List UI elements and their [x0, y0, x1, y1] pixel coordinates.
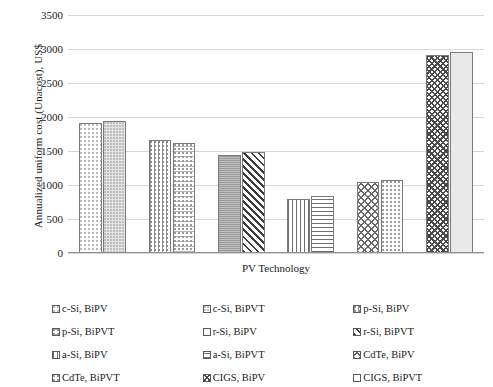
bar-r-si-bipv	[218, 155, 241, 253]
legend-item[interactable]: CdTe, BiPVT	[24, 366, 175, 387]
legend-item[interactable]: p-Si, BiPVT	[24, 320, 175, 343]
gridline	[68, 151, 484, 152]
bar-p-si-bipvt	[173, 143, 196, 253]
bar-a-si-bipv	[287, 199, 310, 253]
legend-label: a-Si, BiPV	[62, 349, 108, 360]
plot-area: 0500100015002000250030003500	[68, 15, 484, 253]
legend-swatch-icon	[52, 305, 60, 313]
gridline	[68, 185, 484, 186]
legend-label: r-Si, BiPVT	[363, 326, 414, 337]
y-tick-label: 3000	[41, 43, 63, 55]
bar-c-si-bipv	[79, 123, 102, 253]
y-tick-label: 3500	[41, 9, 63, 21]
y-tick-label: 2000	[41, 111, 63, 123]
legend-item[interactable]: p-Si, BiPV	[325, 297, 476, 320]
legend-swatch-icon	[353, 351, 361, 359]
gridline	[68, 117, 484, 118]
chart-legend: c-Si, BiPVc-Si, BiPVTp-Si, BiPVp-Si, BiP…	[24, 297, 476, 387]
legend-item[interactable]: CdTe, BiPV	[325, 343, 476, 366]
legend-item[interactable]: c-Si, BiPVT	[175, 297, 326, 320]
bar-c-si-bipvt	[103, 121, 126, 253]
legend-swatch-icon	[353, 305, 361, 313]
legend-label: CIGS, BiPVT	[363, 372, 422, 383]
legend-item[interactable]: CIGS, BiPV	[175, 366, 326, 387]
legend-item[interactable]: a-Si, BiPVT	[175, 343, 326, 366]
legend-label: r-Si, BiPV	[213, 326, 257, 337]
legend-item[interactable]: r-Si, BiPVT	[325, 320, 476, 343]
legend-label: p-Si, BiPVT	[62, 326, 115, 337]
legend-item[interactable]: c-Si, BiPV	[24, 297, 175, 320]
bar-cdte-bipv	[357, 182, 380, 253]
legend-swatch-icon	[52, 328, 60, 336]
legend-label: CdTe, BiPV	[363, 349, 414, 360]
y-tick-label: 0	[58, 247, 64, 259]
legend-swatch-icon	[353, 328, 361, 336]
gridline	[68, 49, 484, 50]
y-tick-label: 2500	[41, 77, 63, 89]
legend-swatch-icon	[203, 374, 211, 382]
legend-swatch-icon	[52, 374, 60, 382]
y-tick-label: 1500	[41, 145, 63, 157]
x-axis-title: PV Technology	[68, 262, 484, 274]
bar-cigs-bipv	[426, 55, 449, 253]
legend-swatch-icon	[203, 305, 211, 313]
legend-label: c-Si, BiPV	[62, 303, 108, 314]
bar-cigs-bipvt	[450, 52, 473, 253]
gridline	[68, 83, 484, 84]
legend-item[interactable]: r-Si, BiPV	[175, 320, 326, 343]
gridline	[68, 219, 484, 220]
bar-r-si-bipvt	[242, 152, 265, 253]
legend-swatch-icon	[52, 351, 60, 359]
bar-p-si-bipv	[149, 140, 172, 253]
legend-label: p-Si, BiPV	[363, 303, 409, 314]
bar-a-si-bipvt	[311, 196, 334, 253]
legend-swatch-icon	[203, 351, 211, 359]
legend-swatch-icon	[203, 328, 211, 336]
y-tick-label: 1000	[41, 179, 63, 191]
legend-item[interactable]: a-Si, BiPV	[24, 343, 175, 366]
legend-label: CdTe, BiPVT	[62, 372, 120, 383]
legend-label: CIGS, BiPV	[213, 372, 266, 383]
gridline	[68, 253, 484, 254]
legend-swatch-icon	[353, 374, 361, 382]
legend-label: c-Si, BiPVT	[213, 303, 265, 314]
legend-label: a-Si, BiPVT	[213, 349, 265, 360]
gridline	[68, 15, 484, 16]
x-axis-line	[68, 252, 484, 253]
y-tick-label: 500	[47, 213, 64, 225]
legend-item[interactable]: CIGS, BiPVT	[325, 366, 476, 387]
bar-cdte-bipvt	[381, 180, 404, 253]
